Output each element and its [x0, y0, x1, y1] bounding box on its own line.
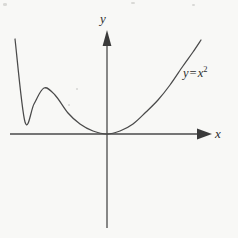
- graph-canvas: [0, 0, 238, 238]
- parabola-figure: y x y=x2: [0, 0, 238, 238]
- scan-speck: [68, 104, 70, 106]
- equation-exponent: 2: [203, 64, 207, 74]
- scan-speck: [131, 2, 135, 4]
- axes-group: [10, 30, 212, 228]
- curve-equation-label: y=x2: [183, 67, 207, 80]
- equation-lhs: y: [183, 66, 189, 80]
- x-axis-label: x: [215, 127, 221, 140]
- y-axis-arrowhead: [103, 30, 112, 46]
- scan-speck: [76, 88, 78, 90]
- scan-speck: [192, 4, 195, 6]
- scan-speck: [3, 3, 7, 6]
- parabola-curve-group: [15, 39, 201, 134]
- x-axis-arrowhead: [197, 129, 212, 140]
- parabola-curve: [15, 39, 201, 134]
- equation-operator: =: [189, 66, 198, 80]
- y-axis-label: y: [100, 12, 106, 25]
